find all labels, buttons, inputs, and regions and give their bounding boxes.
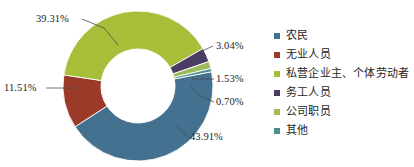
legend-item-label: 农民 [286, 26, 308, 45]
pct-label-unemployed: 11.51% [4, 82, 37, 93]
pct-label-migrant-worker: 3.04% [216, 40, 244, 51]
pct-label-farmer: 43.91% [190, 131, 223, 142]
legend-swatch-icon [274, 52, 280, 58]
legend-item[interactable]: 私营企业主、个体劳动者 [274, 64, 414, 83]
legend-item-label: 公司职员 [286, 102, 331, 121]
donut-chart: 39.31% 11.51% 43.91% 3.04% 1.53% 0.70% 农… [0, 0, 414, 167]
chart-legend: 农民无业人员私营企业主、个体劳动者务工人员公司职员其他 [274, 26, 414, 140]
pct-label-private-owner: 39.31% [36, 13, 69, 24]
pct-label-other: 0.70% [216, 96, 244, 107]
legend-swatch-icon [274, 33, 280, 39]
legend-item-label: 无业人员 [286, 45, 331, 64]
legend-swatch-icon [274, 128, 280, 134]
legend-swatch-icon [274, 90, 280, 96]
pct-label-company-staff: 1.53% [216, 73, 244, 84]
legend-item[interactable]: 无业人员 [274, 45, 414, 64]
legend-item-label: 务工人员 [286, 83, 331, 102]
legend-swatch-icon [274, 109, 280, 115]
legend-swatch-icon [274, 71, 280, 77]
legend-item[interactable]: 务工人员 [274, 83, 414, 102]
legend-item[interactable]: 公司职员 [274, 102, 414, 121]
legend-item-label: 私营企业主、个体劳动者 [286, 64, 409, 83]
legend-item-label: 其他 [286, 121, 308, 140]
legend-item[interactable]: 其他 [274, 121, 414, 140]
legend-item[interactable]: 农民 [274, 26, 414, 45]
